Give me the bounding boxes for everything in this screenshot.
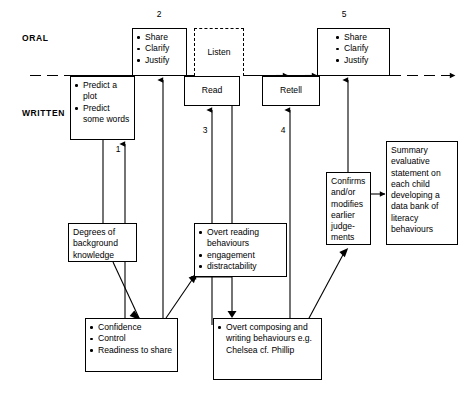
node-overt-reading-item-behaviours: Overt reading behaviours xyxy=(199,227,282,250)
step-number-5: 5 xyxy=(338,9,350,19)
node-overt-reading-behaviours: Overt reading behaviours engagement dist… xyxy=(194,223,287,277)
step-number-2: 2 xyxy=(153,9,165,19)
node-listen: Listen xyxy=(194,28,244,76)
node-overt-reading-item-distractability: distractability xyxy=(199,261,282,272)
node-retell-label: Retell xyxy=(280,85,302,96)
node-5-item-share: Share xyxy=(336,32,385,43)
node-listen-label: Listen xyxy=(208,47,231,58)
node-degrees-background-knowledge: Degrees of background knowledge xyxy=(68,223,137,262)
node-overt-composing-item: Overt composing and writing behaviours e… xyxy=(218,322,317,356)
oral-written-literacy-diagram: ORAL WRITTEN 1 2 3 4 5 Share Clarify Jus… xyxy=(0,0,471,394)
node-share-clarify-justify-5: Share Clarify Justify xyxy=(317,28,390,76)
node-overt-composing-writing: Overt composing and writing behaviours e… xyxy=(213,318,322,380)
node-read: Read xyxy=(184,76,240,106)
node-retell: Retell xyxy=(262,76,320,106)
node-confirms-modifies: Confirms and/or modifies earlier judge- … xyxy=(326,172,371,245)
node-confidence-item-readiness: Readiness to share xyxy=(90,345,173,356)
node-overt-reading-item-engagement: engagement xyxy=(199,250,282,261)
arrow-composing-to-confirms xyxy=(308,248,348,320)
node-confidence-list: Confidence Control Readiness to share xyxy=(90,322,173,356)
node-confirms-text: Confirms and/or modifies earlier judge- … xyxy=(331,176,366,244)
node-predict: Predict a plot Predict some words xyxy=(70,76,135,140)
step-number-4: 4 xyxy=(277,125,289,135)
node-read-label: Read xyxy=(202,85,223,96)
node-2-item-justify: Justify xyxy=(137,55,182,66)
axis-label-oral: ORAL xyxy=(22,33,48,43)
node-summary-statement: Summary evaluative statement on each chi… xyxy=(386,141,458,245)
node-2-list: Share Clarify Justify xyxy=(137,32,182,66)
node-confidence-item-confidence: Confidence xyxy=(90,322,173,333)
arrow-overt-reading-to-composing xyxy=(191,277,237,318)
node-share-clarify-justify-2: Share Clarify Justify xyxy=(132,28,187,76)
node-predict-item-plot: Predict a plot xyxy=(75,80,130,103)
arrow-confidence-to-overt-reading xyxy=(166,274,197,318)
node-confidence-item-control: Control xyxy=(90,333,173,344)
axis-label-written: WRITTEN xyxy=(22,108,65,118)
step-number-3: 3 xyxy=(199,125,211,135)
arrow-degrees-to-confidence xyxy=(113,262,142,321)
node-2-item-share: Share xyxy=(137,32,182,43)
node-5-item-clarify: Clarify xyxy=(336,43,385,54)
node-5-item-justify: Justify xyxy=(336,55,385,66)
node-2-item-clarify: Clarify xyxy=(137,43,182,54)
node-overt-reading-list: Overt reading behaviours engagement dist… xyxy=(199,227,282,272)
step-number-1: 1 xyxy=(112,144,124,154)
node-confidence-control: Confidence Control Readiness to share xyxy=(85,318,178,372)
node-overt-composing-list: Overt composing and writing behaviours e… xyxy=(218,322,317,356)
node-predict-list: Predict a plot Predict some words xyxy=(75,80,130,125)
node-degrees-text: Degrees of background knowledge xyxy=(73,227,132,261)
node-5-list: Share Clarify Justify xyxy=(322,32,385,66)
node-summary-text: Summary evaluative statement on each chi… xyxy=(391,145,453,235)
node-predict-item-words: Predict some words xyxy=(75,103,130,126)
